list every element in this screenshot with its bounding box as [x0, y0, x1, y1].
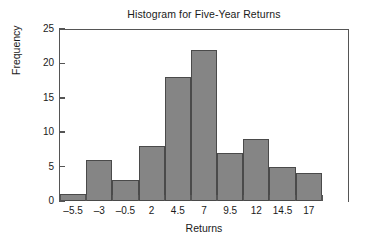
y-tick-label: 5 [14, 162, 54, 172]
y-tick-label: 15 [14, 93, 54, 103]
x-tick-mark [216, 195, 218, 201]
histogram-figure: Histogram for Five-Year Returns 05101520… [0, 0, 368, 251]
histogram-bar [217, 153, 243, 201]
x-tick-mark [112, 195, 114, 201]
x-tick-mark [85, 195, 87, 201]
y-tick-label: 0 [14, 196, 54, 206]
x-tick-label: 17 [287, 205, 331, 216]
histogram-bar [165, 77, 191, 201]
y-tick-label: 10 [14, 127, 54, 137]
bars-layer [60, 29, 348, 201]
histogram-bar [269, 167, 295, 201]
x-axis-title: Returns [60, 222, 348, 234]
x-tick-mark [138, 195, 140, 201]
histogram-bar [112, 180, 138, 201]
chart-title: Histogram for Five-Year Returns [60, 8, 348, 20]
x-tick-mark [321, 195, 323, 201]
x-tick-mark [269, 195, 271, 201]
x-tick-mark [59, 195, 61, 201]
y-tick-mark [60, 131, 65, 133]
y-axis-title: Frequency [10, 25, 22, 75]
x-tick-mark [190, 195, 192, 201]
histogram-bar [139, 146, 165, 201]
y-tick-mark [60, 63, 65, 65]
histogram-bar [243, 139, 269, 201]
y-tick-mark [60, 28, 65, 30]
x-tick-mark [164, 195, 166, 201]
y-tick-mark [60, 166, 65, 168]
x-tick-mark [243, 195, 245, 201]
x-tick-mark [295, 195, 297, 201]
histogram-bar [296, 173, 322, 201]
histogram-bar [86, 160, 112, 201]
histogram-bar [191, 50, 217, 201]
y-tick-mark [60, 97, 65, 99]
y-tick-mark [60, 200, 65, 202]
